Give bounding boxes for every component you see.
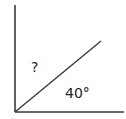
known-angle-label: 40°	[65, 85, 90, 101]
diagonal-ray	[15, 41, 101, 112]
angle-diagram: ? 40°	[0, 0, 126, 119]
unknown-angle-label: ?	[31, 59, 38, 75]
